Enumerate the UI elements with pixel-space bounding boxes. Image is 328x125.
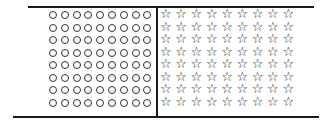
circle-icon: [120, 24, 128, 32]
circle-icon: [96, 86, 104, 94]
star-icon: ☆: [267, 96, 282, 109]
circle-icon: [73, 24, 81, 32]
circle-icon: [84, 11, 92, 19]
circle-icon: [73, 11, 81, 19]
circle-icon: [132, 49, 140, 57]
circle-icon: [120, 61, 128, 69]
circle-icon: [143, 11, 151, 19]
bottom-border-line: [13, 116, 319, 118]
circle-icon: [61, 24, 69, 32]
circle-icon: [73, 99, 81, 107]
circle-icon: [49, 24, 57, 32]
circle-icon: [49, 61, 57, 69]
circle-icon: [132, 24, 140, 32]
star-icon: ☆: [252, 96, 267, 109]
circle-icon: [49, 74, 57, 82]
circle-icon: [61, 99, 69, 107]
circle-icon: [84, 24, 92, 32]
star-grid: ☆☆☆☆☆☆☆☆☆☆☆☆☆☆☆☆☆☆☆☆☆☆☆☆☆☆☆☆☆☆☆☆☆☆☆☆☆☆☆☆…: [160, 8, 298, 108]
circle-icon: [49, 11, 57, 19]
star-icon: ☆: [221, 96, 236, 109]
circle-icon: [132, 86, 140, 94]
circle-icon: [108, 11, 116, 19]
circle-icon: [96, 99, 104, 107]
circle-icon: [108, 99, 116, 107]
star-icon: ☆: [175, 96, 190, 109]
circle-icon: [96, 49, 104, 57]
circle-icon: [120, 11, 128, 19]
circle-icon: [61, 74, 69, 82]
star-icon: ☆: [206, 96, 221, 109]
circle-icon: [61, 86, 69, 94]
circle-icon: [96, 11, 104, 19]
circle-icon: [49, 86, 57, 94]
circle-icon: [132, 61, 140, 69]
circle-icon: [108, 86, 116, 94]
circle-icon: [143, 61, 151, 69]
circle-icon: [120, 99, 128, 107]
star-icon: ☆: [282, 96, 297, 109]
circle-icon: [143, 86, 151, 94]
circle-grid: [49, 9, 155, 109]
circle-icon: [108, 61, 116, 69]
circle-icon: [84, 86, 92, 94]
circle-icon: [108, 49, 116, 57]
circle-icon: [96, 74, 104, 82]
circle-icon: [132, 11, 140, 19]
circle-icon: [73, 49, 81, 57]
circle-icon: [49, 49, 57, 57]
circle-icon: [143, 99, 151, 107]
circle-icon: [73, 86, 81, 94]
circle-icon: [73, 74, 81, 82]
circle-icon: [108, 36, 116, 44]
circle-icon: [132, 99, 140, 107]
circle-icon: [96, 24, 104, 32]
star-icon: ☆: [236, 96, 251, 109]
circle-icon: [96, 61, 104, 69]
circle-icon: [61, 36, 69, 44]
circle-icon: [61, 11, 69, 19]
circle-icon: [49, 36, 57, 44]
circle-icon: [132, 74, 140, 82]
circle-icon: [84, 49, 92, 57]
circle-icon: [108, 24, 116, 32]
circle-icon: [120, 74, 128, 82]
circle-icon: [73, 61, 81, 69]
circle-icon: [120, 49, 128, 57]
circle-icon: [143, 24, 151, 32]
circle-icon: [84, 74, 92, 82]
circle-icon: [143, 49, 151, 57]
circle-icon: [73, 36, 81, 44]
circle-icon: [61, 61, 69, 69]
star-icon: ☆: [160, 96, 175, 109]
circle-icon: [108, 74, 116, 82]
circle-icon: [61, 49, 69, 57]
circle-icon: [132, 36, 140, 44]
circle-icon: [120, 36, 128, 44]
circle-icon: [84, 99, 92, 107]
circle-icon: [49, 99, 57, 107]
circle-icon: [96, 36, 104, 44]
circle-icon: [143, 74, 151, 82]
circle-icon: [120, 86, 128, 94]
circle-icon: [84, 61, 92, 69]
circle-icon: [143, 36, 151, 44]
circle-icon: [84, 36, 92, 44]
center-divider-line: [156, 6, 158, 118]
star-icon: ☆: [191, 96, 206, 109]
